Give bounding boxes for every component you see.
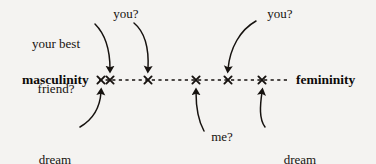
arrow-you-left xyxy=(134,23,148,69)
annotation-label-dream-woman: dream woman? xyxy=(266,122,334,164)
annotation-line-2: friend? xyxy=(18,81,94,96)
diagram-canvas: masculinity femininity your best friend?… xyxy=(0,0,376,164)
annotation-line-1: your best xyxy=(18,36,94,51)
annotation-line-1: dream xyxy=(266,152,334,164)
annotation-label-your-best-friend: your best friend? xyxy=(18,6,94,126)
arrow-you-right xyxy=(228,21,256,69)
axis-marker-1 xyxy=(97,76,104,83)
arrow-dream-woman xyxy=(260,92,265,127)
annotation-label-you-left: you? xyxy=(104,6,148,21)
axis-pole-femininity: femininity xyxy=(296,73,355,87)
annotation-label-dream-man: dream man? xyxy=(24,122,86,164)
annotation-line-1: dream xyxy=(24,152,86,164)
arrow-me xyxy=(196,92,204,131)
arrow-your-best-friend xyxy=(95,24,110,69)
annotation-label-you-right: you? xyxy=(258,6,302,21)
annotation-label-me: me? xyxy=(205,129,239,144)
